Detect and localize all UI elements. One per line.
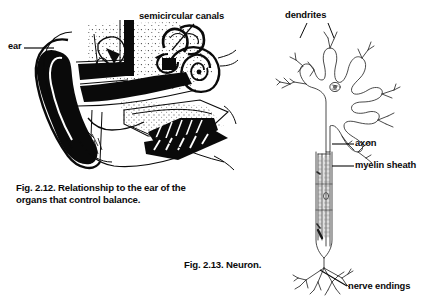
nerve-endings-leader-line <box>320 268 350 290</box>
ear-leader-line <box>24 40 58 56</box>
figure-page: ear semicircular canals Fig. 2.12. Relat… <box>0 0 421 304</box>
label-ear: ear <box>8 42 22 52</box>
figure-2-12-caption: Fig. 2.12. Relationship to the ear of th… <box>16 182 186 206</box>
semicircular-canals-leader-line <box>170 24 200 52</box>
ear-diagram <box>28 14 238 174</box>
label-semicircular-canals: semicircular canals <box>139 11 224 21</box>
label-axon: axon <box>355 138 376 148</box>
figure-2-12-caption-line-1: Fig. 2.12. Relationship to the ear of th… <box>16 182 186 194</box>
nerve-trailing-lines <box>214 50 238 170</box>
label-nerve-endings: nerve endings <box>348 281 410 291</box>
figure-2-12-caption-line-2: organs that control balance. <box>16 194 186 206</box>
neuron-nucleus <box>330 82 340 91</box>
figure-2-13-caption: Fig. 2.13. Neuron. <box>184 259 261 271</box>
dendrites-leader-lines <box>294 22 340 40</box>
ear-diagram-svg <box>28 14 238 174</box>
figure-2-13-caption-line-1: Fig. 2.13. Neuron. <box>184 259 261 271</box>
label-myelin-sheath: myelin sheath <box>355 160 416 170</box>
label-dendrites: dendrites <box>285 10 326 20</box>
